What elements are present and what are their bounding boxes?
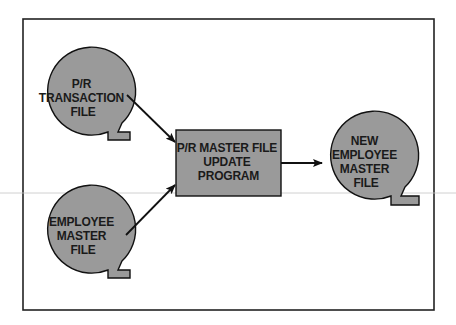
node-line: MASTER xyxy=(57,229,107,243)
node-line: PROGRAM xyxy=(198,169,259,183)
node-line: EMPLOYEE xyxy=(49,215,114,229)
node-line: MASTER xyxy=(340,162,390,176)
node-line: EMPLOYEE xyxy=(332,148,397,162)
node-line: FILE xyxy=(70,243,95,257)
node-line: UPDATE xyxy=(203,155,250,169)
node-line: FILE xyxy=(353,176,378,190)
flowchart-canvas: P/R TRANSACTION FILE EMPLOYEE MASTER FIL… xyxy=(0,0,456,325)
node-line: P/R MASTER FILE xyxy=(177,141,278,155)
node-line: NEW xyxy=(351,134,379,148)
node-line: FILE xyxy=(70,105,95,119)
node-line: TRANSACTION xyxy=(39,91,124,105)
node-line: P/R xyxy=(72,77,92,91)
pr-master-file-update-program-node: P/R MASTER FILE UPDATE PROGRAM xyxy=(176,130,281,196)
